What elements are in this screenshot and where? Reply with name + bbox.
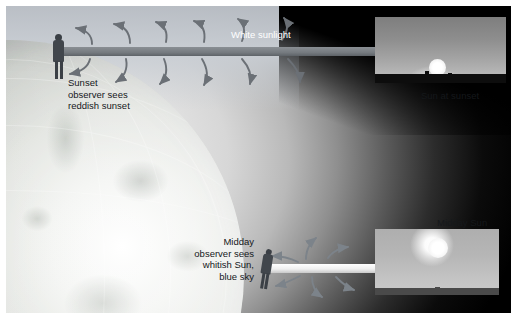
midday-sunlight-beam [268,264,388,273]
sun-at-sunset-caption: Sun at sunset [421,90,479,101]
midday-sun-photo [375,229,499,295]
midday-city-skyline [375,288,499,295]
sunset-city-skyline [375,74,506,83]
scattering-diagram-figure: White sunlight Sunset observer sees redd… [0,0,517,328]
sun-at-sunset-photo [375,17,506,83]
sunset-sunlight-beam [58,47,388,56]
white-sunlight-label: White sunlight [231,29,291,41]
midday-observer-label: Midday observer sees whitish Sun, blue s… [182,236,254,282]
sunset-observer-label: Sunset observer sees reddish sunset [68,77,130,112]
sunset-observer-figure [51,34,67,80]
midday-sun-caption: Midday Sun [437,217,487,228]
